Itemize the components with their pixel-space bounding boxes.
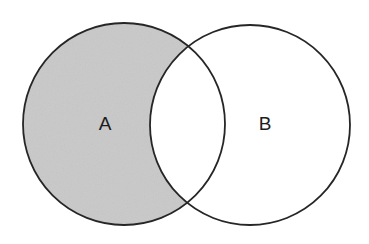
shade-grain-texture	[0, 0, 369, 244]
venn-diagram-svg: A B	[0, 0, 369, 244]
set-label-b: B	[259, 113, 272, 134]
set-label-a: A	[99, 113, 112, 134]
shaded-region-a-minus-b	[0, 0, 369, 244]
venn-diagram-canvas: A B	[0, 0, 369, 244]
